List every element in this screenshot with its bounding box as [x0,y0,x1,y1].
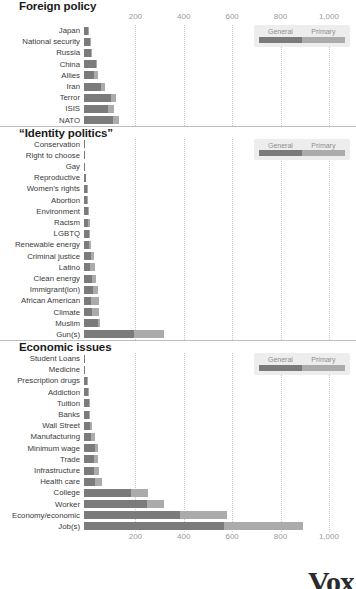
panel-foreign-policy: Foreign policy 2004006008001,000 JapanNa… [0,0,356,126]
stacked-bar [84,263,95,271]
bar-row-label: Clean energy [0,273,84,284]
legend-identity-politics: General Primary [254,139,350,161]
bar-segment-general [84,500,147,508]
bar-track [84,398,356,409]
bar-track [84,161,356,172]
bar-segment-general [84,105,108,113]
bar-segment-general [84,319,98,327]
stacked-bar [84,444,98,452]
bar-row-label: African American [0,295,84,306]
stacked-bar [84,27,89,35]
bar-row: Immigrant(ion) [0,284,356,295]
bar-row: ISIS [0,103,356,114]
bar-row-label: Allies [0,70,84,81]
bar-track [84,510,356,521]
bar-row-label: Terror [0,92,84,103]
stacked-bar [84,140,85,148]
bar-row: Russia [0,47,356,58]
stacked-bar [84,105,114,113]
legend-swatch-general [259,365,302,371]
bar-row-label: Minimum wage [0,443,84,454]
bar-row: Racism [0,217,356,228]
bar-track [84,81,356,92]
stacked-bar [84,433,95,441]
bar-segment-primary [91,297,99,305]
panel-title-identity-politics: “Identity politics” [0,127,356,139]
bar-track [84,228,356,239]
bar-row-label: Muslim [0,318,84,329]
legend-label-primary: Primary [302,356,345,363]
bar-row-label: NATO [0,115,84,126]
bar-row-label: Climate [0,307,84,318]
bar-row-label: Immigrant(ion) [0,284,84,295]
stacked-bar [84,83,105,91]
bar-segment-general [84,478,95,486]
bar-row: Clean energy [0,273,356,284]
bar-row: Latino [0,262,356,273]
stacked-bar [84,163,85,171]
bar-segment-primary [111,94,116,102]
bar-row: LGBTQ [0,228,356,239]
bar-rows-economic-issues: Student LoansMedicinePrescription drugsA… [0,353,356,532]
bar-row-label: Reproductive [0,172,84,183]
bar-track [84,70,356,81]
stacked-bar [84,60,97,68]
bar-row: Renewable energy [0,239,356,250]
bar-row-label: Russia [0,47,84,58]
bar-segment-primary [89,241,91,249]
bar-track [84,217,356,228]
bar-row: African American [0,295,356,306]
stacked-bar [84,174,86,182]
stacked-bar [84,467,99,475]
bar-segment-primary [91,433,94,441]
stacked-bar [84,185,87,193]
bar-track [84,329,356,340]
bar-row-label: Gun(s) [0,329,84,340]
bar-rows-identity-politics: ConservationRight to chooseGayReproducti… [0,139,356,340]
bar-track [84,521,356,532]
bar-row-label: LGBTQ [0,228,84,239]
bar-track [84,115,356,126]
bar-track [84,420,356,431]
bar-row: Trade [0,454,356,465]
bar-track [84,206,356,217]
bar-segment-general [84,433,91,441]
stacked-bar [84,94,116,102]
bar-segment-primary [90,38,91,46]
bar-segment-general [84,49,91,57]
bar-row: Climate [0,307,356,318]
stacked-bar [84,207,88,215]
bar-segment-primary [88,219,89,227]
bar-row-label: Criminal justice [0,251,84,262]
axis-bottom-economic-issues: 2004006008001,000 [0,532,356,545]
stacked-bar [84,297,99,305]
bar-row: Addiction [0,387,356,398]
bar-segment-primary [94,455,98,463]
bar-segment-general [84,444,95,452]
bar-row-label: Addiction [0,387,84,398]
legend-swatch-primary [302,150,345,156]
stacked-bar [84,196,88,204]
bar-row: China [0,59,356,70]
bar-row-label: Job(s) [0,521,84,532]
stacked-bar [84,308,99,316]
legend-label-general: General [259,142,302,149]
bar-segment-primary [89,230,90,238]
stacked-bar [84,489,148,497]
bar-row: Worker [0,499,356,510]
bar-row-label: Health care [0,476,84,487]
stacked-bar [84,455,98,463]
bar-row-label: Women's rights [0,183,84,194]
bar-segment-general [84,163,85,171]
bar-row: Gun(s) [0,329,356,340]
bar-row: Women's rights [0,183,356,194]
stacked-bar [84,411,90,419]
bar-track [84,273,356,284]
bar-segment-primary [131,489,148,497]
stacked-bar [84,355,85,363]
bar-segment-general [84,522,224,530]
stacked-bar [84,38,91,46]
bar-segment-general [84,489,131,497]
stacked-bar [84,252,94,260]
bar-segment-general [84,366,85,374]
